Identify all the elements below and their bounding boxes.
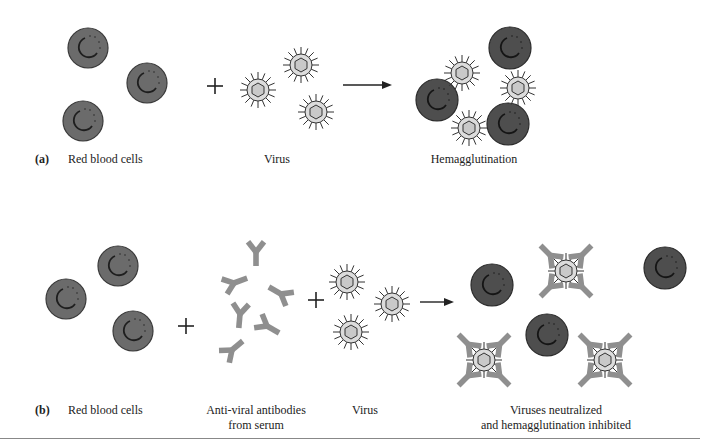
panel-a-viruses [240, 47, 334, 130]
arrow-icon [420, 298, 454, 306]
label-a-virus: Virus [264, 152, 290, 167]
hemagglutination-inhibition-diagram [0, 0, 704, 442]
panel-b-rbcs [46, 246, 153, 351]
arrow-icon [343, 81, 392, 89]
plus-icon [207, 78, 223, 94]
label-b-virus: Virus [352, 403, 378, 418]
panel-b-letter: (b) [35, 403, 50, 418]
plus-icon [308, 292, 324, 308]
label-b-result-2: and hemagglutination inhibited [481, 418, 631, 433]
label-b-antibodies-2: from serum [228, 418, 284, 433]
panel-a-rbcs [63, 28, 167, 141]
plus-icon [178, 318, 194, 334]
label-b-result-1: Viruses neutralized [510, 403, 602, 418]
label-a-rbc: Red blood cells [68, 152, 143, 167]
panel-b-viruses [329, 264, 410, 350]
hemagglutination-cluster [416, 27, 536, 146]
label-b-rbc: Red blood cells [68, 403, 143, 418]
panel-a-letter: (a) [35, 152, 49, 167]
antibodies [216, 240, 296, 365]
label-a-result: Hemagglutination [431, 152, 518, 167]
bottom-rule [0, 438, 700, 439]
label-b-antibodies-1: Anti-viral antibodies [206, 403, 306, 418]
neutralized-result [451, 238, 686, 392]
